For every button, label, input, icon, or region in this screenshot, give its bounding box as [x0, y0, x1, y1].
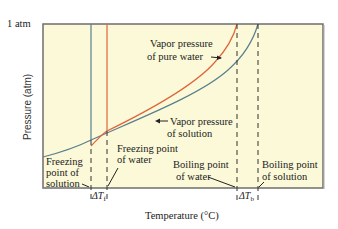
- label-fp-solution-2: point of: [46, 167, 79, 178]
- label-fp-solution-1: Freezing: [46, 156, 83, 167]
- label-fp-water-2: of water: [117, 154, 152, 165]
- label-vp-solution-2: of solution: [167, 128, 213, 139]
- y-axis-label: Pressure (atm): [22, 74, 33, 140]
- label-vp-pure-water-2: of pure water: [147, 51, 203, 62]
- label-bp-solution-1: Boiling point: [262, 159, 318, 170]
- y-top-label: 1 atm: [7, 18, 31, 29]
- label-bp-water-1: Boiling point: [173, 159, 229, 170]
- label-bp-solution-2: of solution: [262, 171, 308, 182]
- label-vp-solution-1: Vapor pressure: [170, 116, 233, 127]
- label-fp-solution-3: solution: [46, 178, 81, 189]
- delta-tf-label: ΔTf: [91, 190, 106, 203]
- phase-diagram: 1 atm Pressure (atm) Vapor pressure of p…: [0, 0, 338, 229]
- label-fp-water-1: Freezing point: [117, 143, 178, 154]
- delta-tb-label: ΔTb: [238, 190, 254, 203]
- label-bp-water-2: of water: [176, 171, 211, 182]
- x-axis-label: Temperature (°C): [145, 210, 219, 222]
- label-vp-pure-water-1: Vapor pressure: [150, 38, 213, 49]
